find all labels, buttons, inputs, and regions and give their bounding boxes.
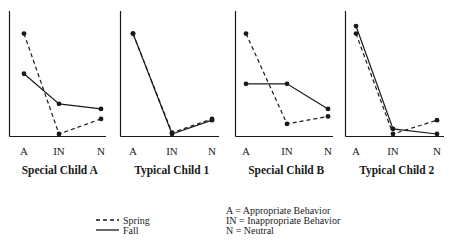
- data-point: [285, 122, 290, 127]
- data-point: [22, 71, 27, 76]
- series-line-fall: [356, 26, 437, 134]
- data-point: [57, 101, 62, 106]
- data-point: [99, 117, 104, 122]
- data-point: [354, 24, 359, 29]
- panel-title: Special Child B: [248, 164, 324, 177]
- panel-title: Special Child A: [22, 164, 99, 177]
- x-tick-label: A: [352, 145, 360, 157]
- x-tick-label: A: [129, 145, 137, 157]
- x-tick-label: A: [20, 145, 28, 157]
- data-point: [391, 127, 396, 132]
- series-line-fall: [246, 84, 328, 109]
- chart-figure: AINNSpecial Child AAINNTypical Child 1AI…: [0, 0, 449, 247]
- x-tick-label: IN: [281, 145, 293, 157]
- data-point: [435, 118, 440, 123]
- data-point: [244, 31, 249, 36]
- series-line-fall: [24, 74, 101, 109]
- x-tick-label: IN: [387, 145, 399, 157]
- series-line-spring: [246, 34, 328, 124]
- data-point: [99, 106, 104, 111]
- x-tick-label: IN: [53, 145, 65, 157]
- series-line-spring: [356, 34, 437, 134]
- panel-special-child-b: AINNSpecial Child B: [236, 11, 334, 177]
- panel-special-child-a: AINNSpecial Child A: [10, 11, 107, 177]
- data-point: [326, 106, 331, 111]
- x-tick-label: N: [324, 145, 332, 157]
- data-point: [391, 132, 396, 137]
- legend-key: A = Appropriate Behavior IN = Inappropri…: [226, 205, 341, 236]
- x-tick-label: A: [242, 145, 250, 157]
- data-point: [131, 31, 136, 36]
- legend-series: Spring Fall: [96, 215, 150, 236]
- data-point: [57, 132, 62, 137]
- x-tick-label: IN: [166, 145, 178, 157]
- data-point: [435, 132, 440, 137]
- key-neutral: N = Neutral: [226, 225, 274, 236]
- data-point: [210, 118, 215, 123]
- x-tick-label: N: [433, 145, 441, 157]
- legend-fall-label: Fall: [123, 225, 139, 236]
- data-point: [170, 132, 175, 137]
- panel-title: Typical Child 2: [359, 164, 434, 177]
- data-point: [244, 81, 249, 86]
- data-point: [22, 31, 27, 36]
- x-tick-label: N: [97, 145, 105, 157]
- panel-title: Typical Child 1: [134, 164, 209, 177]
- x-tick-label: N: [208, 145, 216, 157]
- data-point: [285, 81, 290, 86]
- series-line-fall: [133, 34, 212, 134]
- series-line-spring: [133, 34, 212, 133]
- data-point: [326, 114, 331, 119]
- panel-typical-child-2: AINNTypical Child 2: [346, 11, 445, 177]
- panel-typical-child-1: AINNTypical Child 1: [121, 11, 220, 177]
